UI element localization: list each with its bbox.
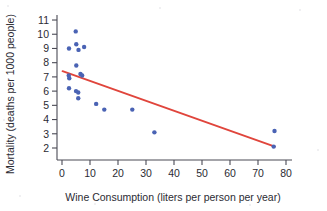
data-point (67, 86, 71, 90)
y-axis: 234567891011 (37, 14, 57, 160)
paper-speck (7, 5, 9, 7)
chart-canvas: 234567891011 01020304050607080 Wine Cons… (0, 0, 327, 211)
y-axis-tick-label: 3 (43, 128, 49, 140)
x-axis: 01020304050607080 (57, 160, 292, 179)
data-point (271, 144, 275, 148)
data-point (76, 96, 80, 100)
data-point (67, 76, 71, 80)
data-point (272, 129, 276, 133)
y-axis-tick-label: 7 (43, 71, 49, 83)
paper-speck (159, 7, 161, 9)
x-axis-tick-label: 70 (252, 167, 264, 179)
paper-speck (249, 204, 251, 206)
paper-speck (317, 149, 319, 151)
x-axis-tick-label: 30 (140, 167, 152, 179)
data-point (152, 130, 156, 134)
regression-line (63, 71, 275, 146)
y-axis-tick-label: 11 (38, 14, 49, 26)
trend-line (63, 71, 275, 146)
y-axis-tick-label: 9 (43, 42, 49, 54)
y-axis-tick-label: 5 (43, 99, 49, 111)
data-point (94, 102, 98, 106)
paper-speck (19, 195, 21, 197)
y-axis-tick-label: 10 (37, 28, 49, 40)
paper-speck (94, 203, 96, 205)
data-point (80, 73, 84, 77)
x-axis-tick-label: 40 (168, 167, 180, 179)
x-axis-tick-label: 80 (280, 167, 292, 179)
data-point (76, 90, 80, 94)
x-axis-title: Wine Consumption (liters per person per … (65, 191, 280, 203)
data-point (74, 42, 78, 46)
data-point (74, 29, 78, 33)
y-axis-tick-label: 2 (43, 142, 49, 154)
data-point (82, 45, 86, 49)
paper-speck (299, 9, 301, 11)
data-point (67, 46, 71, 50)
y-axis-title: Mortality (deaths per 1000 people) (4, 14, 16, 174)
y-axis-tick-label: 8 (43, 56, 49, 68)
data-points (67, 29, 277, 149)
x-axis-tick-label: 0 (59, 167, 65, 179)
data-point (130, 107, 134, 111)
y-axis-tick-label: 4 (43, 113, 49, 125)
x-axis-tick-label: 50 (196, 167, 208, 179)
x-axis-tick-label: 60 (224, 167, 236, 179)
y-axis-tick-label: 6 (43, 85, 49, 97)
data-point (76, 48, 80, 52)
x-axis-tick-label: 10 (84, 167, 96, 179)
scatter-chart: 234567891011 01020304050607080 Wine Cons… (0, 0, 327, 211)
data-point (74, 63, 78, 67)
x-axis-tick-label: 20 (112, 167, 124, 179)
data-point (102, 107, 106, 111)
